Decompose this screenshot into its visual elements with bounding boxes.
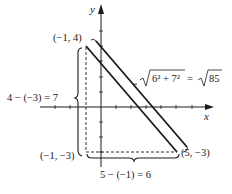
hypotenuse-result: 85 — [209, 73, 220, 84]
hypotenuse-line — [86, 46, 177, 152]
distance-formula-diagram: x y — [0, 0, 232, 194]
y-axis: y — [89, 3, 104, 167]
vertical-distance-label: 4 − (−3) = 7 — [7, 92, 58, 104]
vertical-brace — [75, 48, 82, 156]
point-label-top-left: (−1, 4) — [53, 32, 82, 44]
hypotenuse-measure-line — [91, 39, 188, 152]
hypotenuse-formula: 6² + 7² = 85 — [140, 70, 222, 86]
diagram-canvas: x y — [0, 0, 232, 194]
point-label-bottom-right: (5, −3) — [181, 147, 210, 159]
point-label-bottom-left: (−1, −3) — [40, 150, 75, 162]
horizontal-distance-label: 5 − (−1) = 6 — [100, 169, 151, 181]
y-axis-arrow-icon — [98, 4, 104, 14]
hypotenuse-equals: = — [187, 73, 193, 84]
y-axis-label: y — [89, 3, 95, 15]
hypotenuse-radicand: 6² + 7² — [152, 73, 180, 84]
x-axis-label: x — [203, 110, 209, 122]
hypotenuse-leader — [131, 82, 137, 85]
x-axis: x — [40, 104, 214, 122]
